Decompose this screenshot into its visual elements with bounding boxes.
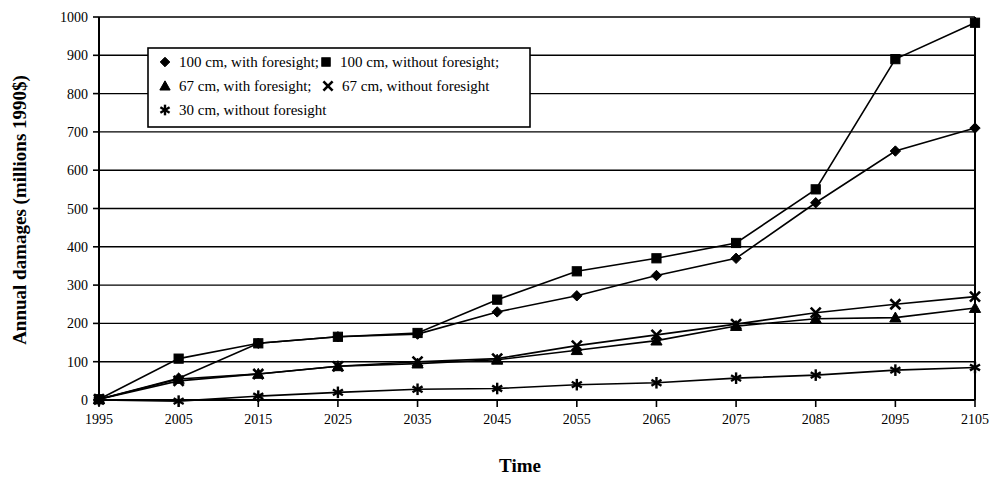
marker-square [811,185,820,194]
series-line [99,367,975,401]
chart-figure: 01002003004005006007008009001000 1995200… [0,0,997,494]
series-line [99,128,975,399]
x-tick-label: 2045 [483,412,511,427]
y-tick-label: 600 [67,163,88,178]
marker-square [333,332,342,341]
x-tick-label: 2035 [404,412,432,427]
marker-diamond [890,146,900,156]
legend-label: 100 cm, with foresight; [179,54,319,70]
marker-diamond [492,307,502,317]
marker-diamond [651,270,661,280]
y-tick-label: 500 [67,202,88,217]
x-tick-label: 1995 [85,412,113,427]
y-tick-label: 400 [67,240,88,255]
y-axis-tick-labels: 01002003004005006007008009001000 [60,10,88,408]
marker-square [413,328,422,337]
marker-square [970,18,979,27]
legend-label: 67 cm, with foresight; [179,78,311,94]
y-tick-label: 0 [81,393,88,408]
y-tick-label: 100 [67,355,88,370]
y-axis-title: Annual damages (millions 1990$) [9,75,31,345]
legend-label: 30 cm, without foresight [179,102,327,118]
y-tick-label: 1000 [60,10,88,25]
marker-diamond [731,253,741,263]
y-tick-label: 200 [67,316,88,331]
marker-square [891,55,900,64]
marker-square [572,267,581,276]
series-line [99,308,975,399]
series-group-2 [93,302,980,403]
x-tick-label: 2065 [642,412,670,427]
marker-square [322,58,330,66]
x-tick-label: 2015 [244,412,272,427]
x-tick-label: 2095 [881,412,909,427]
marker-triangle [969,302,980,312]
marker-square [493,295,502,304]
y-tick-label: 300 [67,278,88,293]
x-axis-title: Time [499,455,541,476]
marker-square [652,254,661,263]
legend-label: 100 cm, without foresight; [340,54,499,70]
marker-square [731,238,740,247]
legend-label: 67 cm, without foresight [342,78,490,94]
x-tick-label: 2105 [961,412,989,427]
x-axis-tick-labels: 1995200520152025203520452055206520752085… [85,412,989,427]
x-tick-label: 2055 [563,412,591,427]
marker-square [254,339,263,348]
chart-legend: 100 cm, with foresight;100 cm, without f… [148,48,530,127]
y-tick-label: 900 [67,48,88,63]
x-tick-label: 2025 [324,412,352,427]
y-tick-label: 700 [67,125,88,140]
marker-square [174,354,183,363]
x-tick-label: 2005 [165,412,193,427]
y-tick-label: 800 [67,87,88,102]
marker-diamond [572,291,582,301]
x-tick-label: 2075 [722,412,750,427]
x-tick-label: 2085 [802,412,830,427]
marker-diamond [811,198,821,208]
annual-damages-line-chart: 01002003004005006007008009001000 1995200… [0,0,997,494]
